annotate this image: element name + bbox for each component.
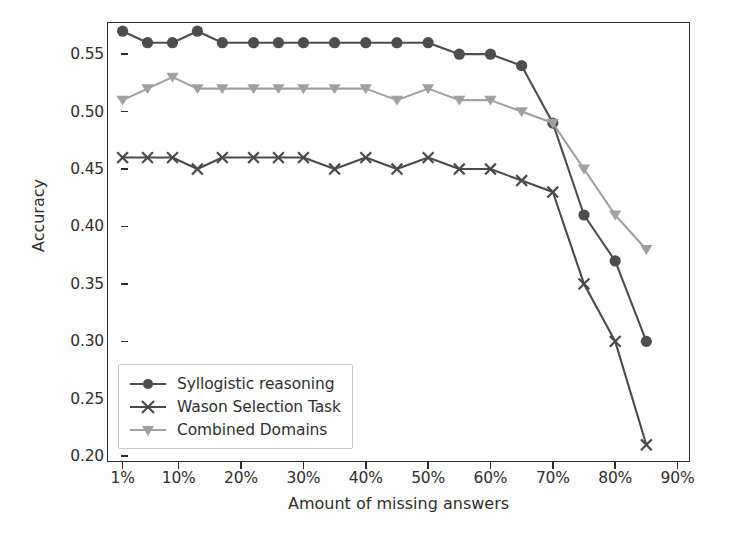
chart-figure: 0.200.250.300.350.400.450.500.55 1%10%20…: [0, 0, 737, 533]
y-axis-title: Accuracy: [29, 136, 48, 296]
x-tick-mark: [178, 462, 180, 469]
x-tick-mark: [303, 462, 305, 469]
x-tick-label: 30%: [268, 469, 338, 487]
x-tick-label: 80%: [580, 469, 650, 487]
legend-marker-circle-icon: [128, 374, 168, 394]
x-axis-title: Amount of missing answers: [107, 494, 690, 513]
legend-label: Wason Selection Task: [177, 398, 341, 416]
x-tick-mark: [365, 462, 367, 469]
x-tick-label: 90%: [643, 469, 713, 487]
x-tick-mark: [614, 462, 616, 469]
chart-legend: Syllogistic reasoning Wason Selection Ta…: [118, 364, 353, 449]
x-tick-label: 20%: [206, 469, 276, 487]
legend-label: Syllogistic reasoning: [177, 375, 334, 393]
x-tick-label: 70%: [518, 469, 588, 487]
x-tick-label: 10%: [144, 469, 214, 487]
x-tick-mark: [427, 462, 429, 469]
x-tick-mark: [552, 462, 554, 469]
x-tick-label: 50%: [393, 469, 463, 487]
legend-label: Combined Domains: [177, 421, 327, 439]
legend-marker-triangle-down-icon: [128, 420, 168, 440]
x-tick-label: 40%: [331, 469, 401, 487]
x-tick-mark: [677, 462, 679, 469]
x-tick-mark: [122, 462, 124, 469]
x-tick-mark: [240, 462, 242, 469]
x-tick-label: 60%: [455, 469, 525, 487]
legend-item[interactable]: Syllogistic reasoning: [128, 372, 341, 395]
legend-marker-x-icon: [128, 397, 168, 417]
legend-item[interactable]: Wason Selection Task: [128, 395, 341, 418]
x-tick-mark: [490, 462, 492, 469]
legend-item[interactable]: Combined Domains: [128, 418, 341, 441]
x-axis-ticks: 1%10%20%30%40%50%60%70%80%90%: [0, 0, 737, 533]
